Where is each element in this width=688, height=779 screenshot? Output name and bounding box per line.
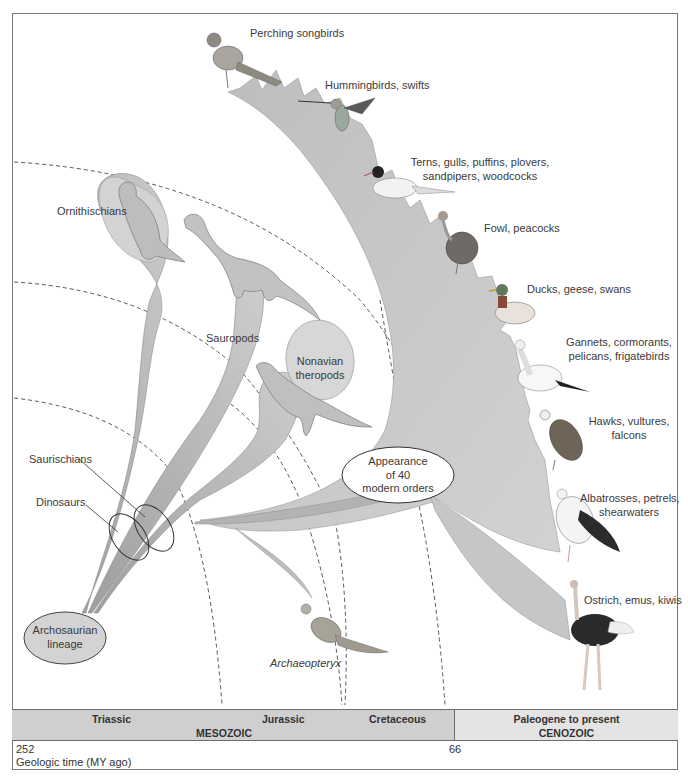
sauropod-branch xyxy=(88,280,264,613)
time-boundary-value: 66 xyxy=(449,743,461,755)
period-paleogene: Paleogene to present xyxy=(455,713,678,725)
nonavian-line2: theropods xyxy=(292,369,348,383)
bird-group-label: Perching songbirds xyxy=(250,27,344,41)
modern-orders-line1: Appearance xyxy=(352,455,444,469)
era-cenozoic: CENOZOIC xyxy=(455,727,678,739)
mesozoic-era-bar: Triassic Jurassic Cretaceous MESOZOIC xyxy=(12,709,454,741)
time-start-value: 252 xyxy=(16,743,34,755)
bird-group-line2: shearwaters xyxy=(580,506,678,520)
saurischians-label: Saurischians xyxy=(29,453,92,467)
hawk-icon xyxy=(540,410,589,470)
modern-orders-line2: of 40 xyxy=(352,469,444,483)
sauropods-label: Sauropods xyxy=(206,332,259,346)
archaeopteryx-branch xyxy=(235,528,312,598)
bird-group-label: Gannets, cormorants, pelicans, frigatebi… xyxy=(563,336,675,363)
nonavian-theropods-label: Nonavian theropods xyxy=(292,355,348,382)
bird-group-label: Ducks, geese, swans xyxy=(527,283,631,297)
ornithischians-label: Ornithischians xyxy=(57,205,127,219)
archaeopteryx-label: Archaeopteryx xyxy=(270,657,341,671)
archosaurian-line1: Archosaurian xyxy=(30,624,100,638)
bird-group-line2: sandpipers, woodcocks xyxy=(405,170,555,184)
songbird-icon xyxy=(207,33,282,88)
bird-group-label: Terns, gulls, puffins, plovers, sandpipe… xyxy=(405,156,555,183)
time-axis-label: Geologic time (MY ago) xyxy=(16,756,131,768)
bird-group-line2: pelicans, frigatebirds xyxy=(563,350,675,364)
dinosaurs-leader xyxy=(86,505,118,532)
bird-group-line2: falcons xyxy=(584,429,674,443)
bird-group-line1: Terns, gulls, puffins, plovers, xyxy=(405,156,555,170)
archosaurian-lineage-label: Archosaurian lineage xyxy=(30,624,100,651)
period-jurassic: Jurassic xyxy=(262,713,305,725)
bird-group-label: Hummingbirds, swifts xyxy=(325,79,430,93)
bird-group-line1: Gannets, cormorants, xyxy=(563,336,675,350)
cenozoic-era-bar: Paleogene to present CENOZOIC xyxy=(454,709,678,741)
archosaurian-line2: lineage xyxy=(30,638,100,652)
bird-group-label: Hawks, vultures, falcons xyxy=(584,415,674,442)
bird-group-line1: Albatrosses, petrels, xyxy=(580,492,678,506)
archaeopteryx-icon xyxy=(301,604,388,653)
modern-orders-label: Appearance of 40 modern orders xyxy=(352,455,444,496)
period-triassic: Triassic xyxy=(92,713,131,725)
bird-group-line1: Hawks, vultures, xyxy=(584,415,674,429)
geologic-timeline: Triassic Jurassic Cretaceous MESOZOIC Pa… xyxy=(12,709,678,770)
nonavian-line1: Nonavian xyxy=(292,355,348,369)
bird-group-label: Fowl, peacocks xyxy=(484,222,560,236)
modern-orders-line3: modern orders xyxy=(352,482,444,496)
bird-group-label: Ostrich, emus, kiwis xyxy=(584,594,682,608)
saurischians-leader xyxy=(79,459,145,517)
dinosaurs-label: Dinosaurs xyxy=(36,496,86,510)
phylogeny-artwork xyxy=(0,0,688,779)
period-cretaceous: Cretaceous xyxy=(369,713,426,725)
bird-group-label: Albatrosses, petrels, shearwaters xyxy=(580,492,678,519)
era-mesozoic: MESOZOIC xyxy=(196,727,252,739)
